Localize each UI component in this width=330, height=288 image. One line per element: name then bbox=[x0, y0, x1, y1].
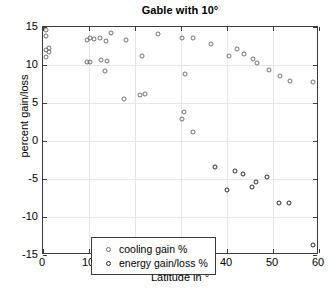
data-point-cooling bbox=[91, 37, 96, 42]
legend-item-cooling: cooling gain % bbox=[97, 242, 208, 256]
data-point-cooling bbox=[179, 116, 184, 121]
data-point-cooling bbox=[287, 78, 292, 83]
y-tick-mark bbox=[313, 65, 317, 66]
data-point-cooling bbox=[47, 50, 52, 55]
legend-label-energy: energy gain/loss % bbox=[119, 257, 208, 269]
chart-title: Gable with 10° bbox=[42, 4, 318, 16]
gridline-horizontal bbox=[43, 65, 317, 66]
data-point-cooling bbox=[43, 34, 48, 39]
data-point-cooling bbox=[123, 37, 128, 42]
x-tick-mark bbox=[273, 27, 274, 31]
x-tick-mark bbox=[89, 27, 90, 31]
data-point-cooling bbox=[190, 36, 195, 41]
chart-legend: cooling gain % energy gain/loss % bbox=[91, 237, 216, 275]
legend-item-energy: energy gain/loss % bbox=[97, 256, 208, 270]
data-point-cooling bbox=[209, 41, 214, 46]
x-tick-label: 50 bbox=[266, 256, 278, 268]
x-tick-label: 40 bbox=[220, 256, 232, 268]
x-tick-mark bbox=[319, 27, 320, 31]
data-point-cooling bbox=[242, 52, 247, 57]
data-point-energy bbox=[240, 171, 245, 176]
data-point-cooling bbox=[121, 97, 126, 102]
data-point-cooling bbox=[140, 53, 145, 58]
y-tick-mark bbox=[313, 217, 317, 218]
y-tick-mark bbox=[313, 179, 317, 180]
y-tick-label: 15 bbox=[26, 20, 38, 32]
gridline-vertical bbox=[135, 27, 136, 253]
y-tick-mark bbox=[43, 179, 47, 180]
y-tick-mark bbox=[43, 217, 47, 218]
y-tick-mark bbox=[43, 65, 47, 66]
gridline-horizontal bbox=[43, 217, 317, 218]
x-tick-mark bbox=[319, 249, 320, 253]
y-tick-mark bbox=[313, 141, 317, 142]
data-point-cooling bbox=[267, 68, 272, 73]
plot-area: cooling gain % energy gain/loss % bbox=[42, 26, 318, 254]
data-point-cooling bbox=[137, 93, 142, 98]
data-point-energy bbox=[253, 180, 258, 185]
gridline-horizontal bbox=[43, 179, 317, 180]
data-point-cooling bbox=[43, 28, 48, 33]
y-tick-mark bbox=[43, 141, 47, 142]
x-tick-mark bbox=[89, 249, 90, 253]
data-point-cooling bbox=[104, 38, 109, 43]
data-point-cooling bbox=[98, 58, 103, 63]
y-tick-mark bbox=[313, 103, 317, 104]
data-point-cooling bbox=[182, 72, 187, 77]
data-point-energy bbox=[233, 168, 238, 173]
gridline-vertical bbox=[181, 27, 182, 253]
data-point-energy bbox=[213, 164, 218, 169]
y-axis-label: percent gain/loss bbox=[18, 36, 30, 196]
x-tick-mark bbox=[135, 27, 136, 31]
data-point-cooling bbox=[105, 59, 110, 64]
data-point-cooling bbox=[179, 36, 184, 41]
data-point-energy bbox=[225, 187, 230, 192]
y-tick-mark bbox=[43, 103, 47, 104]
x-tick-mark bbox=[181, 27, 182, 31]
gridline-horizontal bbox=[43, 141, 317, 142]
chart-figure: Gable with 10° cooling gain % energy gai… bbox=[0, 0, 330, 288]
data-point-energy bbox=[265, 175, 270, 180]
x-tick-mark bbox=[273, 249, 274, 253]
gridline-vertical bbox=[227, 27, 228, 253]
gridline-horizontal bbox=[43, 103, 317, 104]
data-point-cooling bbox=[43, 55, 48, 60]
data-point-cooling bbox=[87, 59, 92, 64]
y-tick-mark bbox=[313, 27, 317, 28]
data-point-cooling bbox=[98, 36, 103, 41]
data-point-cooling bbox=[250, 56, 255, 61]
data-point-energy bbox=[277, 201, 282, 206]
gridline-vertical bbox=[273, 27, 274, 253]
x-tick-mark bbox=[227, 249, 228, 253]
legend-marker-cooling-icon bbox=[97, 247, 119, 252]
x-tick-mark bbox=[43, 249, 44, 253]
data-point-energy bbox=[249, 184, 254, 189]
x-tick-label: 60 bbox=[312, 256, 324, 268]
data-point-cooling bbox=[190, 129, 195, 134]
x-tick-label: 0 bbox=[39, 256, 45, 268]
y-tick-label: -10 bbox=[22, 210, 38, 222]
y-tick-label: 0 bbox=[32, 134, 38, 146]
data-point-cooling bbox=[311, 79, 316, 84]
x-tick-mark bbox=[227, 27, 228, 31]
data-point-cooling bbox=[143, 91, 148, 96]
data-point-cooling bbox=[226, 53, 231, 58]
legend-label-cooling: cooling gain % bbox=[119, 243, 187, 255]
data-point-cooling bbox=[181, 110, 186, 115]
data-point-cooling bbox=[278, 74, 283, 79]
data-point-cooling bbox=[109, 31, 114, 36]
data-point-cooling bbox=[235, 47, 240, 52]
data-point-cooling bbox=[255, 61, 260, 66]
y-tick-label: -15 bbox=[22, 248, 38, 260]
data-point-cooling bbox=[156, 31, 161, 36]
legend-marker-energy-icon bbox=[97, 261, 119, 266]
data-point-energy bbox=[311, 243, 316, 248]
data-point-cooling bbox=[102, 69, 107, 74]
data-point-energy bbox=[286, 200, 291, 205]
y-tick-label: 5 bbox=[32, 96, 38, 108]
